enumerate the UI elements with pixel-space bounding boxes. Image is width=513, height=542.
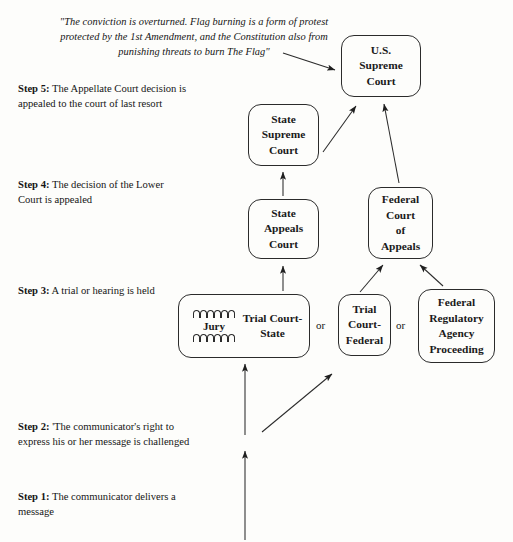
step-4-caption: Step 4: The decision of the Lower Court … xyxy=(18,178,190,207)
node-state-appeals-court[interactable]: State Appeals Court xyxy=(248,199,319,259)
step-2-label: Step 2: xyxy=(18,421,50,432)
jury-label: Jury xyxy=(203,319,225,333)
or-connector-2: or xyxy=(396,319,405,331)
jury-seat-icon xyxy=(228,310,235,318)
jury-seat-icon xyxy=(221,334,228,342)
node-trial-court-federal-line-3: Federal xyxy=(346,333,383,349)
jury-seat-icon xyxy=(200,334,207,342)
node-trial-court-federal-line-2: Court- xyxy=(348,317,381,333)
node-trial-court-state-line-2: State xyxy=(240,326,305,342)
node-state-supreme-court-line-2: Supreme xyxy=(262,127,305,143)
node-trial-court-federal-line-1: Trial xyxy=(353,302,377,318)
step-1-label: Step 1: xyxy=(18,491,50,502)
node-trial-court-state-line-1: Trial Court- xyxy=(240,311,305,327)
step-3-text: A trial or hearing is held xyxy=(52,285,155,296)
jury-row-top xyxy=(193,310,235,318)
quote-line-1: "The conviction is overturned. Flag burn… xyxy=(60,16,328,27)
node-federal-court-of-appeals-line-3: of xyxy=(396,223,406,239)
step-1-caption: Step 1: The communicator delivers a mess… xyxy=(18,490,194,519)
node-trial-court-state-label: Trial Court- State xyxy=(240,311,309,342)
court-opinion-quote: "The conviction is overturned. Flag burn… xyxy=(46,14,342,59)
node-us-supreme-court-line-3: Court xyxy=(366,74,395,90)
node-federal-regulatory-line-3: Agency xyxy=(438,326,474,342)
jury-seat-icon xyxy=(207,334,214,342)
node-trial-court-federal[interactable]: Trial Court- Federal xyxy=(338,294,391,356)
node-federal-court-of-appeals[interactable]: Federal Court of Appeals xyxy=(368,187,433,259)
jury-seat-icon xyxy=(221,310,228,318)
step-5-caption: Step 5: The Appellate Court decision is … xyxy=(18,82,196,111)
arrow-federal-appeals-to-us-supreme xyxy=(384,104,399,183)
quote-line-2: protected by the 1st Amendment, and the … xyxy=(60,31,306,42)
step-3-caption: Step 3: A trial or hearing is held xyxy=(18,284,204,299)
step-3-label: Step 3: xyxy=(18,285,50,296)
node-state-supreme-court-line-1: State xyxy=(271,112,296,128)
jury-seat-icon xyxy=(193,334,200,342)
node-us-supreme-court[interactable]: U.S. Supreme Court xyxy=(341,35,421,97)
step-5-label: Step 5: xyxy=(18,83,50,94)
step-4-label: Step 4: xyxy=(18,179,50,190)
arrow-step2-to-trial-federal xyxy=(262,374,332,432)
jury-seat-icon xyxy=(207,310,214,318)
arrow-trial-federal-to-federal-appeals xyxy=(360,265,383,292)
node-federal-court-of-appeals-line-1: Federal xyxy=(382,192,419,208)
node-trial-court-state[interactable]: Jury Trial Court- State xyxy=(178,294,310,358)
jury-seat-icon xyxy=(193,310,200,318)
arrow-state-supreme-to-us-supreme xyxy=(323,106,356,152)
node-state-appeals-court-line-3: Court xyxy=(269,237,298,253)
node-federal-court-of-appeals-line-4: Appeals xyxy=(381,239,420,255)
node-federal-regulatory-agency-proceeding[interactable]: Federal Regulatory Agency Proceeding xyxy=(418,289,495,363)
jury-seat-icon xyxy=(214,334,221,342)
node-state-supreme-court-line-3: Court xyxy=(269,143,298,159)
node-state-appeals-court-line-1: State xyxy=(271,206,296,222)
or-connector-1: or xyxy=(316,319,325,331)
jury-seat-icon xyxy=(200,310,207,318)
node-us-supreme-court-line-2: Supreme xyxy=(359,58,402,74)
node-federal-regulatory-line-1: Federal xyxy=(438,295,475,311)
jury-row-bottom xyxy=(193,334,235,342)
jury-box-icon: Jury xyxy=(188,310,240,342)
node-federal-regulatory-line-4: Proceeding xyxy=(429,342,483,358)
node-state-supreme-court[interactable]: State Supreme Court xyxy=(248,104,319,166)
node-state-appeals-court-line-2: Appeals xyxy=(264,221,303,237)
arrow-fed-regulatory-to-federal-appeals xyxy=(420,265,443,286)
jury-seat-icon xyxy=(214,310,221,318)
node-federal-regulatory-line-2: Regulatory xyxy=(429,311,483,327)
step-2-caption: Step 2: 'The communicator's right to exp… xyxy=(18,420,194,449)
jury-seat-icon xyxy=(228,334,235,342)
diagram-canvas: "The conviction is overturned. Flag burn… xyxy=(0,0,513,542)
node-federal-court-of-appeals-line-2: Court xyxy=(386,208,415,224)
node-us-supreme-court-line-1: U.S. xyxy=(371,43,391,59)
